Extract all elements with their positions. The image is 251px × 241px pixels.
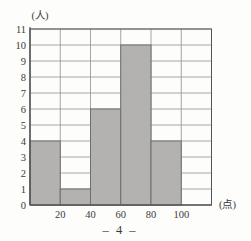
y-tick-label: 10: [16, 40, 27, 51]
y-tick-label: 4: [21, 136, 27, 147]
y-tick-label: 0: [21, 200, 26, 211]
y-tick-label: 11: [16, 24, 26, 35]
histogram-bar: [60, 189, 90, 205]
page-number: – 4 –: [102, 223, 138, 237]
y-tick-label: 8: [21, 72, 26, 83]
histogram-bar: [121, 45, 151, 205]
histogram-bar: [30, 141, 60, 205]
y-tick-label: 6: [21, 104, 26, 115]
y-tick-label: 5: [21, 120, 26, 131]
y-tick-label: 2: [21, 168, 26, 179]
y-tick-label: 7: [21, 88, 26, 99]
x-tick-label: 100: [173, 209, 189, 220]
x-tick-label: 40: [85, 209, 96, 220]
histogram-svg: 0123456789101120406080100 (人) (点) – 4 –: [0, 0, 251, 241]
scanned-page: 0123456789101120406080100 (人) (点) – 4 –: [0, 0, 251, 241]
y-tick-label: 3: [21, 152, 26, 163]
y-tick-label: 9: [21, 56, 26, 67]
y-tick-label: 1: [21, 184, 26, 195]
x-tick-label: 20: [55, 209, 66, 220]
x-tick-label: 80: [146, 209, 157, 220]
histogram-bar: [151, 141, 181, 205]
y-axis-unit-label: (人): [32, 10, 49, 22]
x-tick-label: 60: [116, 209, 127, 220]
x-axis-unit-label: (点): [219, 199, 236, 211]
histogram-bar: [91, 109, 121, 205]
